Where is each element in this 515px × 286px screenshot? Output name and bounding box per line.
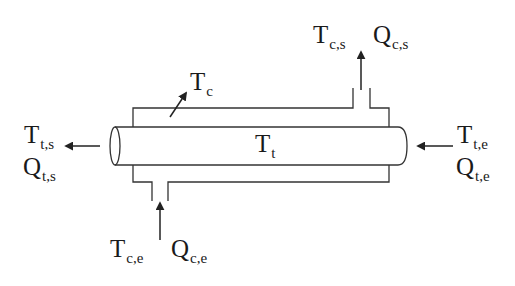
label-shell-outlet-temp: Tc,s xyxy=(313,21,346,52)
label-tube-inlet-temp: Tt,e xyxy=(457,121,488,152)
tube-right-end-cap xyxy=(398,127,407,165)
label-shell-temp: Tc xyxy=(190,68,213,99)
label-tube-inlet-flow: Qt,e xyxy=(456,153,490,184)
label-shell-inlet-temp: Tc,e xyxy=(110,235,144,266)
shell-temp-pointer-arrow xyxy=(170,93,186,117)
label-shell-inlet-flow: Qc,e xyxy=(171,235,207,266)
label-tube-temp: Tt xyxy=(255,130,276,161)
label-tube-outlet-temp: Tt,s xyxy=(24,121,54,152)
label-tube-outlet-flow: Qt,s xyxy=(23,153,56,184)
heat-exchanger-diagram: Tt,s Qt,s Tt,e Qt,e Tc,s Qc,s Tc,e Qc,e … xyxy=(0,0,515,286)
label-shell-outlet-flow: Qc,s xyxy=(373,21,408,52)
tube-left-end-ellipse xyxy=(110,127,120,165)
